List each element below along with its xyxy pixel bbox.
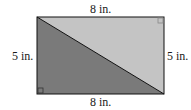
label-left: 5 in. xyxy=(12,49,33,64)
label-bottom: 8 in. xyxy=(90,95,111,110)
label-top: 8 in. xyxy=(90,2,111,17)
label-right: 5 in. xyxy=(167,49,188,64)
